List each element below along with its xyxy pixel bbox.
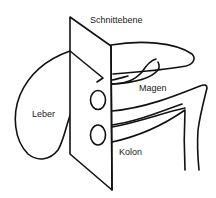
label-stomach: Magen bbox=[139, 84, 167, 93]
label-liver: Leber bbox=[32, 110, 55, 119]
plane-front-edge bbox=[111, 46, 112, 190]
anatomy-drawing bbox=[0, 0, 216, 198]
stomach-outline bbox=[111, 42, 194, 74]
colon-band-3 bbox=[112, 110, 185, 170]
anatomy-diagram: Schnittebene Leber Magen Kolon bbox=[0, 0, 216, 198]
colon-band-1 bbox=[112, 85, 207, 170]
label-colon: Kolon bbox=[119, 148, 142, 157]
colon-band-4 bbox=[112, 104, 182, 125]
label-cutting-plane: Schnittebene bbox=[90, 16, 143, 25]
stomach-lower-curve bbox=[112, 76, 128, 80]
